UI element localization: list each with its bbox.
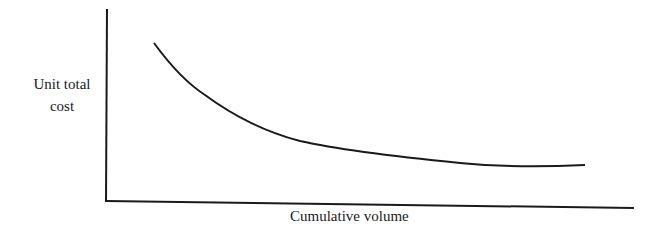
- chart-canvas: [0, 0, 659, 239]
- y-axis-label: Unit total cost: [22, 73, 102, 117]
- x-axis-label: Cumulative volume: [290, 207, 409, 225]
- y-axis: [106, 9, 107, 202]
- y-axis-label-line-2: cost: [22, 95, 102, 117]
- y-axis-label-line-1: Unit total: [22, 73, 102, 95]
- unit-cost-curve: [154, 43, 585, 166]
